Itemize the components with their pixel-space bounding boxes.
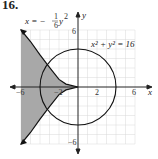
tick-x-2: 2 xyxy=(95,88,99,97)
svg-text:6: 6 xyxy=(54,21,58,30)
svg-text:y: y xyxy=(58,16,63,26)
y-axis-label: y xyxy=(81,10,86,20)
tick-y-6: 6 xyxy=(72,27,76,36)
circle-equation: x² + y² = 16 xyxy=(90,39,135,49)
parabola-equation: x = − 1 6 y 2 xyxy=(24,12,68,30)
y-axis-up-arrow-icon xyxy=(76,12,80,17)
tick-x-neg2: −2 xyxy=(54,88,63,97)
tick-x-neg6: −6 xyxy=(16,88,25,97)
svg-text:1: 1 xyxy=(54,12,58,21)
svg-text:x = −: x = − xyxy=(24,16,46,26)
graph: −6 −2 2 6 6 −6 x y x = − 1 6 y 2 x² + y²… xyxy=(0,0,158,159)
y-axis-down-arrow-icon xyxy=(76,149,80,154)
tick-y-neg6: −6 xyxy=(68,138,77,147)
x-axis-label: x xyxy=(147,87,152,97)
svg-text:2: 2 xyxy=(64,12,68,21)
x-axis-left-arrow-icon xyxy=(10,85,15,89)
tick-x-6: 6 xyxy=(132,88,136,97)
